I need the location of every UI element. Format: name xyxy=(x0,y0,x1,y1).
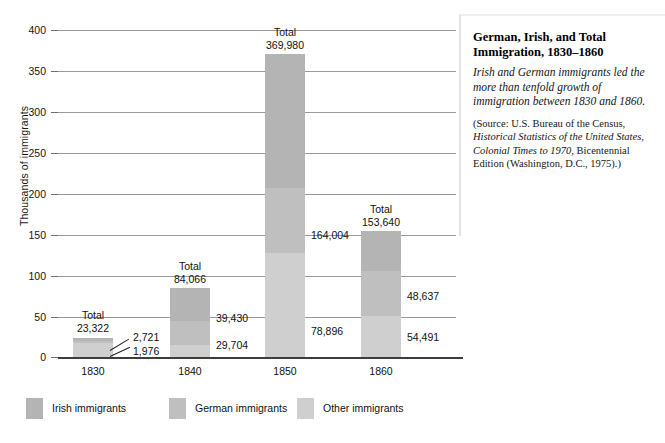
x-tick-label-1840: 1840 xyxy=(155,365,225,377)
caption-source-lead: (Source: U.S. Bureau of the Census, xyxy=(473,118,625,129)
bar-1840-segment-other[interactable] xyxy=(170,345,210,357)
y-tick-label-100: 100 xyxy=(6,270,46,282)
bar-1850-total-label: Total 369,980 xyxy=(240,26,330,51)
bar-1850-total-word: Total xyxy=(274,26,296,38)
y-tick-dash-300 xyxy=(51,112,58,113)
caption-panel: German, Irish, and Total Immigration, 18… xyxy=(459,14,665,236)
bar-1840-segment-irish[interactable] xyxy=(170,288,210,321)
legend-swatch-other-icon xyxy=(297,398,314,419)
bar-1830-total-label: Total 23,322 xyxy=(48,309,138,334)
gridline-200 xyxy=(58,194,456,195)
gridline-300 xyxy=(58,112,456,113)
y-tick-label-50: 50 xyxy=(6,311,46,323)
bar-1840-german-label: 29,704 xyxy=(216,339,248,351)
y-tick-dash-200 xyxy=(51,194,58,195)
caption-title: German, Irish, and Total Immigration, 18… xyxy=(473,30,653,60)
bar-1850-segment-other[interactable] xyxy=(265,253,305,357)
y-tick-dash-100 xyxy=(51,276,58,277)
bar-1860-irish-label: 48,637 xyxy=(407,290,439,302)
bar-1840-total-word: Total xyxy=(179,260,201,272)
bar-1840-total-label: Total 84,066 xyxy=(145,260,235,285)
y-axis-title: Thousands of immigrants xyxy=(18,46,30,286)
legend-item-irish[interactable]: Irish immigrants xyxy=(26,396,186,422)
legend-label-german: German immigrants xyxy=(195,402,287,414)
bar-1830-segment-other[interactable] xyxy=(73,343,113,357)
legend-label-irish: Irish immigrants xyxy=(52,402,126,414)
chart-plot-area: Thousands of immigrants 400 350 300 250 … xyxy=(0,0,460,400)
y-tick-label-300: 300 xyxy=(6,106,46,118)
x-axis-baseline xyxy=(58,357,463,359)
bar-1830-german-label: 1,976 xyxy=(133,345,159,357)
bar-1850-total-value: 369,980 xyxy=(266,39,304,51)
bar-1860-total-value: 153,640 xyxy=(362,216,400,228)
legend-swatch-german-icon xyxy=(169,398,186,419)
bar-1860-total-word: Total xyxy=(370,203,392,215)
x-tick-label-1860: 1860 xyxy=(346,365,416,377)
bar-1850-segment-irish[interactable] xyxy=(265,54,305,188)
bar-1850-irish-label: 164,004 xyxy=(311,229,349,241)
y-tick-label-400: 400 xyxy=(6,24,46,36)
legend-swatch-irish-icon xyxy=(26,398,43,419)
caption-subtitle: Irish and German immigrants led the more… xyxy=(473,65,653,109)
y-tick-dash-250 xyxy=(51,153,58,154)
legend-label-other: Other immigrants xyxy=(323,402,404,414)
y-tick-label-350: 350 xyxy=(6,65,46,77)
bar-1860-segment-irish[interactable] xyxy=(361,231,401,271)
gridline-250 xyxy=(58,153,456,154)
bar-1830[interactable] xyxy=(73,338,113,357)
x-tick-label-1830: 1830 xyxy=(58,365,128,377)
chart-legend: Irish immigrants German immigrants Other… xyxy=(0,396,460,430)
bar-1840-irish-label: 39,430 xyxy=(216,312,248,324)
bar-1860-total-label: Total 153,640 xyxy=(336,203,426,228)
y-tick-label-250: 250 xyxy=(6,147,46,159)
legend-item-other[interactable]: Other immigrants xyxy=(297,396,457,422)
y-tick-dash-150 xyxy=(51,235,58,236)
gridline-350 xyxy=(58,71,456,72)
bar-1860-segment-other[interactable] xyxy=(361,316,401,357)
y-tick-dash-350 xyxy=(51,71,58,72)
bar-1850-segment-german[interactable] xyxy=(265,188,305,253)
y-tick-label-0: 0 xyxy=(6,351,46,363)
figure-root: Thousands of immigrants 400 350 300 250 … xyxy=(0,0,665,443)
bar-1840[interactable] xyxy=(170,288,210,357)
bar-1860[interactable] xyxy=(361,231,401,357)
bar-1830-irish-label: 2,721 xyxy=(133,331,159,343)
y-tick-dash-400 xyxy=(51,30,58,31)
bar-1840-segment-german[interactable] xyxy=(170,321,210,345)
bar-1840-total-value: 84,066 xyxy=(174,273,206,285)
y-tick-label-200: 200 xyxy=(6,188,46,200)
bar-1850[interactable] xyxy=(265,54,305,357)
y-tick-dash-0 xyxy=(51,357,58,358)
y-tick-label-150: 150 xyxy=(6,229,46,241)
bar-1830-total-value: 23,322 xyxy=(77,322,109,334)
caption-source: (Source: U.S. Bureau of the Census, Hist… xyxy=(473,117,653,171)
x-tick-label-1850: 1850 xyxy=(250,365,320,377)
bar-1830-total-word: Total xyxy=(82,309,104,321)
bar-1860-german-label: 54,491 xyxy=(407,331,439,343)
bar-1850-german-label: 78,896 xyxy=(311,325,343,337)
bar-1860-segment-german[interactable] xyxy=(361,271,401,316)
